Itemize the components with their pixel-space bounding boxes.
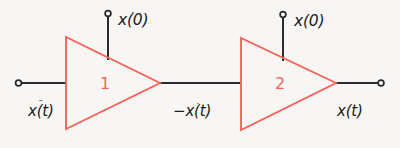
input-terminal-node — [16, 80, 22, 86]
initial-condition-1-dots: · — [131, 8, 135, 18]
diagram-canvas — [0, 0, 400, 148]
initial-condition-1-variable: ·x(0) — [118, 13, 148, 29]
initial-condition-2-text: x(0) — [294, 14, 324, 30]
output-signal-variable: x(t) — [337, 104, 363, 119]
middle-signal-sign: − — [173, 102, 185, 120]
output-terminal-node — [378, 80, 384, 86]
initial-condition-1-label: ·x(0) — [118, 13, 148, 29]
amplifier-block-1-label: 1 — [100, 76, 110, 92]
output-signal-text: x(t) — [337, 104, 363, 119]
input-signal-variable: ¨x(t) — [28, 104, 54, 119]
initial-condition-2-terminal-node — [280, 12, 286, 18]
input-signal-label: ¨x(t) — [28, 104, 54, 119]
amplifier-block-2-label: 2 — [275, 76, 285, 92]
initial-condition-2-variable: x(0) — [294, 14, 324, 30]
amplifier-block-1 — [66, 37, 160, 129]
middle-signal-dots: · — [197, 99, 201, 108]
middle-signal-variable: ·x(t) — [185, 104, 211, 119]
block-diagram: 1 2 ¨x(t) −·x(t) x(t) ·x(0) x(0) — [0, 0, 400, 148]
initial-condition-2-label: x(0) — [294, 14, 324, 30]
middle-signal-label: −·x(t) — [173, 104, 211, 119]
initial-condition-1-terminal-node — [105, 11, 111, 17]
amplifier-block-2 — [241, 38, 336, 130]
input-signal-dots: ¨ — [38, 99, 43, 108]
output-signal-label: x(t) — [337, 104, 363, 119]
